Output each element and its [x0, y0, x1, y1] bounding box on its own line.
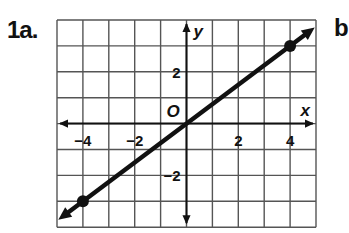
x-tick-label: −2 — [126, 132, 143, 149]
x-axis-label: x — [299, 101, 311, 120]
x-axis-arrow-right — [305, 120, 314, 128]
x-tick-label: 2 — [234, 132, 242, 149]
y-tick-label: 2 — [172, 64, 180, 81]
y-axis-arrow-up — [182, 23, 190, 32]
data-point — [284, 40, 296, 52]
origin-label: O — [167, 102, 180, 121]
y-axis-label: y — [193, 22, 205, 41]
y-tick-label: −2 — [163, 167, 180, 184]
y-axis-arrow-down — [182, 215, 190, 224]
x-axis-arrow-left — [59, 120, 68, 128]
x-tick-label: 4 — [286, 132, 295, 149]
x-tick-label: −4 — [74, 132, 92, 149]
data-point — [77, 195, 89, 207]
